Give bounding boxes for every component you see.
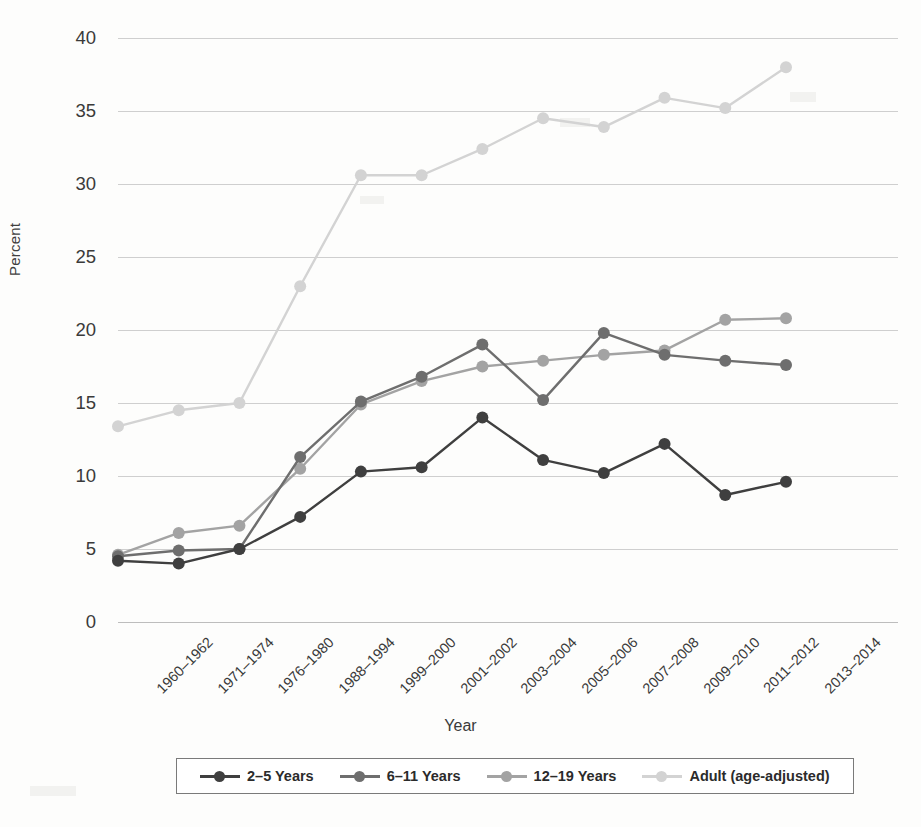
legend-label: Adult (age-adjusted) (689, 768, 829, 784)
x-tick-label: 1999–2000 (396, 634, 459, 697)
x-tick-label: 1960–1962 (153, 634, 216, 697)
x-tick-label: 1976–1980 (275, 634, 338, 697)
legend-item-2[interactable]: 6–11 Years (340, 768, 461, 784)
line-chart: Percent 0510152025303540 1960–19621971–1… (0, 0, 921, 827)
x-tick-label: 2003–2004 (518, 634, 581, 697)
legend-marker-icon (200, 769, 240, 783)
x-tick-label: 2001–2002 (457, 634, 520, 697)
legend-label: 6–11 Years (387, 768, 461, 784)
legend-marker-icon (642, 769, 682, 783)
x-tick-label: 2011–2012 (760, 634, 822, 696)
legend-label: 12–19 Years (534, 768, 617, 784)
x-axis-title: Year (0, 717, 921, 735)
x-tick-label: 2005–2006 (578, 634, 641, 697)
legend-label: 2–5 Years (247, 768, 314, 784)
x-axis-tick-labels: 1960–19621971–19741976–19801988–19941999… (0, 0, 921, 827)
x-tick-label: 2013–2014 (821, 634, 884, 697)
legend: 2–5 Years6–11 Years12–19 YearsAdult (age… (176, 758, 854, 794)
x-tick-label: 2009–2010 (700, 634, 763, 697)
legend-item-1[interactable]: 2–5 Years (200, 768, 314, 784)
legend-item-4[interactable]: Adult (age-adjusted) (642, 768, 829, 784)
legend-marker-icon (487, 769, 527, 783)
x-tick-label: 2007–2008 (639, 634, 702, 697)
legend-item-3[interactable]: 12–19 Years (487, 768, 617, 784)
legend-marker-icon (340, 769, 380, 783)
x-tick-label: 1988–1994 (335, 634, 398, 697)
x-tick-label: 1971–1974 (214, 634, 277, 697)
